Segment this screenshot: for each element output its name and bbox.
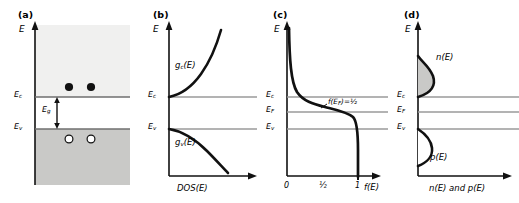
panel-d-level-ec: Ec: [397, 90, 405, 99]
panel-d-x-axis-arrow: [503, 173, 512, 180]
panel-c-level-ec: Ec: [266, 90, 274, 99]
panel-d-curve-label-n: n(E): [436, 52, 453, 62]
panel-c-tick-1: 1: [355, 181, 360, 190]
panel-d-y-axis-arrow: [415, 21, 422, 30]
electron-marker: [65, 83, 73, 91]
panel-a-bandgap-label: Eg: [42, 105, 51, 114]
panel-b-curve-label-gv: gv(E): [175, 137, 196, 147]
conduction-band-region: [35, 25, 130, 97]
panel-b-curve-label-gc: gc(E): [175, 60, 196, 70]
valence-band-region: [35, 129, 130, 185]
panel-b-x-axis-arrow: [248, 173, 257, 180]
panel-c-tick-0: 0: [284, 181, 289, 190]
hole-marker: [65, 135, 73, 143]
semiconductor-figure: (a) E Ec: [0, 0, 519, 203]
panel-c-level-ef: EF: [266, 105, 274, 114]
panel-d: (d) E Ec EF Ev n(E) p(E) n(E) and p(E): [388, 0, 519, 203]
panel-c-x-axis-arrow: [372, 173, 381, 180]
curve-gv: [169, 129, 228, 173]
panel-c-x-axis-label: f(E): [364, 182, 379, 192]
panel-c: (c) E Ec EF Ev f(EF)=½ 0 ½ 1: [257, 0, 388, 203]
electron-marker: [87, 83, 95, 91]
panel-a-level-ev: Ev: [14, 122, 22, 131]
panel-d-x-axis-label: n(E) and p(E): [429, 183, 485, 193]
panel-a-graphic: [0, 0, 133, 203]
panel-d-graphic: [388, 0, 519, 203]
panel-b-level-ev: Ev: [148, 122, 156, 131]
panel-b-x-axis-label: DOS(E): [177, 183, 208, 193]
panel-d-level-ef: EF: [397, 105, 405, 114]
fermi-level-annotation: f(EF)=½: [328, 97, 357, 106]
panel-b-y-axis-arrow: [166, 21, 173, 30]
panel-a-level-ec: Ec: [14, 90, 22, 99]
panel-c-tick-half: ½: [319, 181, 327, 190]
panel-b-level-ec: Ec: [148, 90, 156, 99]
panel-b-graphic: [133, 0, 257, 203]
panel-b: (b) E Ec Ev gc(E) gv(E) DOS(E): [133, 0, 257, 203]
panel-a: (a) E Ec: [0, 0, 133, 203]
panel-c-level-ev: Ev: [266, 122, 274, 131]
panel-c-graphic: [257, 0, 388, 203]
panel-d-curve-label-p: p(E): [430, 152, 447, 162]
hole-marker: [87, 135, 95, 143]
panel-d-level-ev: Ev: [397, 122, 405, 131]
